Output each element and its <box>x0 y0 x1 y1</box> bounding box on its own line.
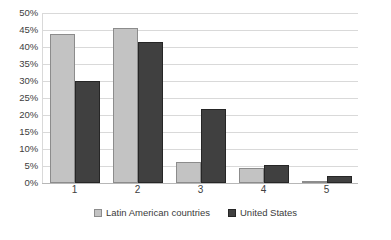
bar-group <box>169 13 232 183</box>
bar <box>327 176 352 183</box>
y-axis-tick-label: 5% <box>24 161 38 171</box>
bar <box>239 168 264 183</box>
bar-group <box>43 13 106 183</box>
y-axis-tick-label: 45% <box>19 25 38 35</box>
x-axis-tick-label: 4 <box>232 185 295 195</box>
y-axis-tick-label: 30% <box>19 76 38 86</box>
legend-item[interactable]: Latin American countries <box>94 208 210 218</box>
bar-chart: 50%45%40%35%30%25%20%15%10%5%0% 12345 La… <box>0 0 391 240</box>
bar <box>75 81 100 183</box>
bar <box>50 34 75 183</box>
bar <box>201 109 226 183</box>
y-axis-tick-label: 15% <box>19 127 38 137</box>
bar-group <box>295 13 358 183</box>
bar <box>176 162 201 183</box>
x-axis: 12345 <box>43 185 358 195</box>
chart-legend: Latin American countriesUnited States <box>0 208 391 218</box>
legend-item[interactable]: United States <box>228 208 297 218</box>
y-axis-tick-label: 50% <box>19 8 38 18</box>
bar <box>138 42 163 183</box>
legend-item-label: Latin American countries <box>106 208 210 218</box>
legend-item-label: United States <box>240 208 297 218</box>
y-axis-tick-label: 35% <box>19 59 38 69</box>
legend-swatch-icon <box>228 209 236 217</box>
y-axis-tick-label: 25% <box>19 93 38 103</box>
y-axis-tick-label: 10% <box>19 144 38 154</box>
bar <box>264 165 289 183</box>
legend-swatch-icon <box>94 209 102 217</box>
x-axis-tick-label: 2 <box>106 185 169 195</box>
y-axis-tick-label: 40% <box>19 42 38 52</box>
x-axis-tick-label: 1 <box>43 185 106 195</box>
y-axis-tick-label: 20% <box>19 110 38 120</box>
bars-layer <box>43 13 358 183</box>
x-axis-tick-label: 3 <box>169 185 232 195</box>
y-axis: 50%45%40%35%30%25%20%15%10%5%0% <box>6 13 38 183</box>
bar <box>302 181 327 183</box>
plot-area: 50%45%40%35%30%25%20%15%10%5%0% 12345 <box>0 0 391 200</box>
x-axis-tick-label: 5 <box>295 185 358 195</box>
bar <box>113 28 138 183</box>
bar-group <box>106 13 169 183</box>
y-axis-tick-label: 0% <box>24 178 38 188</box>
bar-group <box>232 13 295 183</box>
